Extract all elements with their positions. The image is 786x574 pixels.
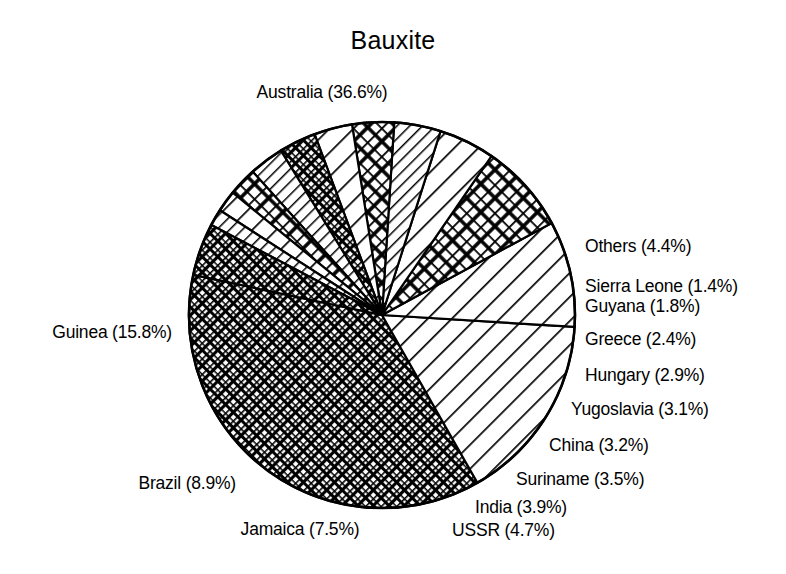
pie-label-guyana: Guyana (1.8%): [585, 296, 700, 317]
page-title: Bauxite: [0, 26, 786, 55]
pie-label-suriname: Suriname (3.5%): [516, 469, 644, 490]
pie-label-sierra-leone: Sierra Leone (1.4%): [585, 276, 738, 297]
pie-label-greece: Greece (2.4%): [585, 329, 696, 350]
pie-label-brazil: Brazil (8.9%): [0, 473, 236, 494]
pie-label-australia: Australia (36.6%): [0, 82, 644, 103]
pie-label-china: China (3.2%): [549, 435, 649, 456]
pie-label-yugoslavia: Yugoslavia (3.1%): [571, 399, 709, 420]
pie-label-others: Others (4.4%): [585, 236, 691, 257]
pie-label-guinea: Guinea (15.8%): [0, 322, 172, 343]
pie-chart-figure: Bauxite Australia (36.6%: [0, 0, 786, 574]
pie-label-hungary: Hungary (2.9%): [585, 365, 705, 386]
pie-label-ussr: USSR (4.7%): [452, 520, 555, 541]
pie-slices-group: [189, 122, 575, 508]
pie-label-india: India (3.9%): [475, 497, 567, 518]
